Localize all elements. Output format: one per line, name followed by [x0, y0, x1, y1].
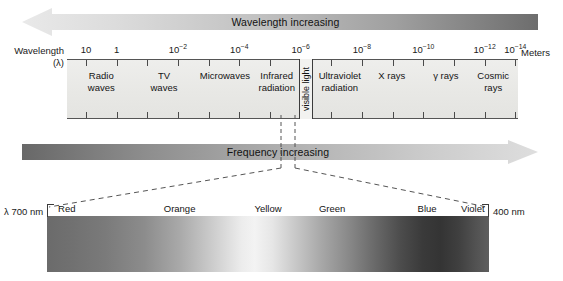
band-label-tv-waves: TV waves — [150, 70, 177, 93]
spectrum-tick — [147, 60, 148, 66]
visible-strip-left-bracket — [47, 204, 54, 217]
visible-left-wavelength: λ 700 nm — [4, 206, 43, 217]
visible-right-wavelength: 400 nm — [493, 206, 525, 217]
visible-light-spectrum-strip: RedOrangeYellowGreenBlueViolet — [47, 216, 489, 272]
spectrum-tick — [454, 60, 455, 66]
scale-tick-label: 10−14 — [504, 44, 526, 56]
spectrum-tick — [331, 60, 332, 66]
color-label-orange: Orange — [164, 203, 196, 214]
wavelength-increasing-arrow: Wavelength increasing — [22, 8, 538, 36]
band-label-radio-waves: Radio waves — [88, 70, 115, 93]
visible-light-gradient — [47, 216, 489, 272]
scale-tick-label: 10−8 — [353, 44, 371, 56]
scale-tick-label: 10−12 — [474, 44, 496, 56]
color-label-red: Red — [58, 203, 75, 214]
color-label-blue: Blue — [418, 203, 437, 214]
scale-tick-label: 10−2 — [169, 44, 187, 56]
band-label-infrared-radiation: Infrared radiation — [258, 70, 294, 93]
band-label-cosmic-rays: Cosmic rays — [477, 70, 509, 93]
wavelength-axis-name: Wavelength — [2, 45, 64, 57]
spectrum-tick — [515, 60, 516, 66]
spectrum-tick — [117, 60, 118, 66]
band-label-x-rays: X rays — [378, 70, 405, 82]
wavelength-scale: 10110−210−410−610−810−1010−1210−14 — [67, 44, 518, 60]
wavelength-axis-label: Wavelength (λ) — [2, 45, 64, 68]
spectrum-tick — [86, 60, 87, 66]
wavelength-axis-symbol: (λ) — [2, 57, 64, 69]
color-label-violet: Violet — [461, 203, 485, 214]
scale-tick-label: 10−6 — [291, 44, 309, 56]
scale-tick-label: 10−4 — [230, 44, 248, 56]
scale-tick-label: 10 — [81, 44, 92, 56]
spectrum-tick — [178, 60, 179, 66]
band-label-ultraviolet-radiation: Ultraviolet radiation — [319, 70, 361, 93]
wavelength-arrow-label: Wavelength increasing — [231, 16, 339, 28]
spectrum-tick — [209, 60, 210, 66]
spectrum-band-box: Radio wavesTV wavesMicrowavesInfrared ra… — [67, 59, 518, 119]
color-label-yellow: Yellow — [254, 203, 281, 214]
band-label-microwaves: Microwaves — [200, 70, 250, 82]
spectrum-tick — [423, 60, 424, 66]
band-label-gamma-rays: γ rays — [433, 70, 458, 82]
scale-tick-label: 1 — [114, 44, 119, 56]
spectrum-tick — [270, 60, 271, 66]
spectrum-tick — [239, 60, 240, 66]
color-label-green: Green — [319, 203, 345, 214]
spectrum-tick — [485, 60, 486, 66]
spectrum-tick — [362, 60, 363, 66]
electromagnetic-spectrum-figure: Wavelength increasing Wavelength (λ) Met… — [0, 0, 563, 281]
visible-light-region: visible light — [299, 59, 312, 119]
spectrum-tick — [393, 60, 394, 66]
scale-tick-label: 10−10 — [412, 44, 434, 56]
visible-light-label: visible light — [301, 67, 311, 111]
